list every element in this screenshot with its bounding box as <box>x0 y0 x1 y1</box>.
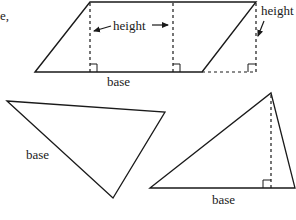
parallelogram-shape <box>35 2 256 72</box>
right-triangle-right-angle-mark <box>263 180 271 188</box>
right-triangle: base <box>150 93 295 207</box>
right-triangle-shape <box>150 93 295 188</box>
left-triangle-base-label: base <box>26 147 49 162</box>
height-label-left: height <box>113 18 146 33</box>
right-triangle-base-label: base <box>212 192 235 207</box>
left-triangle: base <box>7 101 165 198</box>
right-angle-mark-left <box>90 64 97 72</box>
parallelogram: height height base <box>35 2 294 89</box>
geometry-diagram: e, height height base base base <box>0 0 296 220</box>
right-angle-mark-middle <box>173 64 180 72</box>
arrow-left-icon <box>94 26 111 31</box>
fragment-text: e, <box>0 8 9 23</box>
parallelogram-base-label: base <box>107 74 130 89</box>
right-angle-mark-right <box>248 64 256 72</box>
height-label-right: height <box>261 3 294 18</box>
arrow-down-icon <box>258 21 264 36</box>
